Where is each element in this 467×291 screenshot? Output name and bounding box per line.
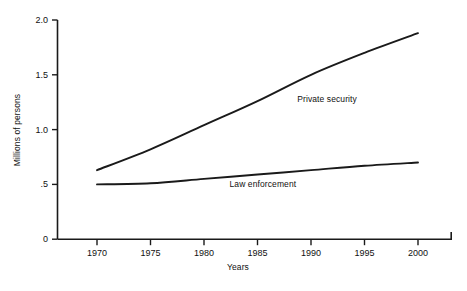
x-tick-label: 1980 <box>194 248 214 258</box>
y-tick-label: .5 <box>22 179 48 189</box>
x-tick-label: 1975 <box>140 248 160 258</box>
x-axis-ticks <box>97 239 418 245</box>
line-chart: 0.51.01.52.0 197019751980198519901995200… <box>0 0 467 291</box>
series-annotation: Law enforcement <box>229 179 296 189</box>
y-axis-ticks <box>52 20 58 239</box>
y-axis-title: Millions of persons <box>12 94 22 166</box>
y-tick-label: 2.0 <box>22 15 48 25</box>
x-tick-label: 2000 <box>408 248 428 258</box>
x-tick-label: 1995 <box>354 248 374 258</box>
x-tick-label: 1990 <box>301 248 321 258</box>
x-tick-label: 1985 <box>247 248 267 258</box>
series-paths <box>97 33 418 184</box>
y-tick-label: 0 <box>22 234 48 244</box>
series-line-private-security <box>97 33 418 170</box>
series-annotation: Private security <box>297 94 357 104</box>
x-tick-label: 1970 <box>87 248 107 258</box>
y-tick-label: 1.5 <box>22 70 48 80</box>
y-tick-label: 1.0 <box>22 125 48 135</box>
chart-canvas <box>0 0 467 291</box>
x-axis-title: Years <box>227 262 249 272</box>
